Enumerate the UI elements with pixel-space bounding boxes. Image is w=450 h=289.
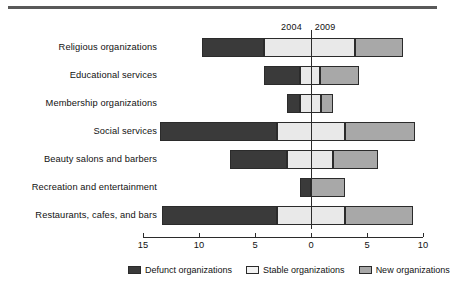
bar-segment-new (345, 206, 413, 225)
legend-item-new: New organizations (359, 265, 450, 275)
legend-item-defunct: Defunct organizations (128, 265, 232, 275)
zero-reference-line (311, 30, 312, 229)
legend-label-stable: Stable organizations (263, 265, 345, 275)
bar-segment-defunct (287, 94, 299, 113)
bar-segment-defunct (264, 66, 300, 85)
x-axis-tick (143, 233, 144, 237)
bar-segment-new (321, 94, 333, 113)
x-axis-tick (199, 233, 200, 237)
x-axis-tick-label: 10 (409, 240, 437, 250)
bar-segment-defunct (202, 38, 264, 57)
bar-segment-new (311, 178, 345, 197)
x-axis-line (143, 237, 423, 238)
bar-row (0, 94, 445, 113)
bar-segment-stable (264, 38, 355, 57)
bar-row (0, 206, 445, 225)
bar-row (0, 38, 445, 57)
x-axis-tick (255, 233, 256, 237)
x-axis-tick-label: 5 (353, 240, 381, 250)
bar-segment-defunct (160, 122, 278, 141)
stable-swatch-icon (246, 266, 259, 274)
bar-segment-defunct (300, 178, 311, 197)
new-swatch-icon (359, 266, 372, 274)
bar-segment-stable (300, 66, 320, 85)
x-axis-tick-label: 10 (185, 240, 213, 250)
bar-segment-new (320, 66, 359, 85)
x-axis-tick-label: 5 (241, 240, 269, 250)
bar-row (0, 150, 445, 169)
bar-segment-new (355, 38, 403, 57)
bar-segment-defunct (162, 206, 277, 225)
legend-item-stable: Stable organizations (246, 265, 345, 275)
bar-row (0, 66, 445, 85)
bar-segment-defunct (230, 150, 287, 169)
chart-legend: Defunct organizations Stable organizatio… (128, 265, 450, 275)
legend-label-new: New organizations (376, 265, 450, 275)
x-axis-tick (311, 233, 312, 237)
x-axis-tick-label: 15 (129, 240, 157, 250)
x-axis-tick (423, 233, 424, 237)
x-axis-tick-label: 0 (297, 240, 325, 250)
defunct-swatch-icon (128, 266, 141, 274)
legend-label-defunct: Defunct organizations (145, 265, 232, 275)
x-axis-tick (367, 233, 368, 237)
bar-segment-new (333, 150, 378, 169)
bar-row (0, 122, 445, 141)
bar-segment-new (345, 122, 416, 141)
bar-row (0, 178, 445, 197)
